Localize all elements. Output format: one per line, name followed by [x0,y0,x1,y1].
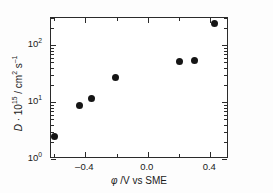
y-tick-right-major-1 [222,102,227,103]
y-axis-exponent-neg1: –1 [11,56,18,64]
y-tick-label: 101 [28,96,42,106]
y-tick-right-minor-0-4 [224,125,227,126]
y-tick-major-2 [51,45,56,46]
y-tick-base: 10 [28,95,39,106]
y-axis-units2: s [13,63,24,71]
x-tick-minor-0 [54,154,55,157]
y-tick-right-minor-1-3 [224,75,227,76]
y-tick-right-major-0 [222,159,227,160]
y-tick-right-minor-1-4 [224,68,227,69]
y-tick-right-minor-1-5 [224,62,227,63]
plot-area [50,17,228,158]
y-tick-base: 10 [28,152,39,163]
x-tick-label: –0.4 [75,161,94,172]
data-point [211,20,218,27]
data-point [191,57,198,64]
y-axis-title: D · 1015 / cm2 s–1 [13,19,24,169]
data-point [112,74,119,81]
y-tick-base: 10 [28,38,39,49]
y-axis-symbol: D [13,124,24,131]
y-tick-right-major-2 [222,45,227,46]
y-tick-minor-0-7 [51,111,54,112]
y-axis-units: / cm [13,75,24,97]
y-tick-right-minor-1-9 [224,48,227,49]
y-tick-exponent: 0 [38,151,42,158]
y-tick-minor-1-7 [51,54,54,55]
y-tick-right-minor-0-8 [224,108,227,109]
y-tick-exponent: 2 [38,37,42,44]
data-point [88,95,95,102]
y-tick-minor-0-4 [51,125,54,126]
y-tick-minor-0-5 [51,119,54,120]
scatter-chart-figure: –0.40.00.4102101100 φ /V vs SME D · 1015… [0,0,273,193]
y-tick-right-minor-2-3 [224,18,227,19]
x-tick-label: 0.4 [203,161,216,172]
y-tick-label: 100 [28,153,42,163]
x-tick-major-1 [148,152,149,157]
y-tick-right-minor-1-7 [224,54,227,55]
x-tick-top-major-1 [148,18,149,23]
y-tick-minor-2-2 [51,28,54,29]
y-tick-minor-2-3 [51,18,54,19]
x-axis-title: φ /V vs SME [50,175,228,186]
y-axis-exponent-15: 15 [11,97,18,105]
y-axis-mid: · 10 [13,104,24,124]
x-axis-units: /V vs SME [118,175,167,186]
x-tick-major-2 [210,152,211,157]
x-tick-label: 0.0 [140,161,153,172]
y-tick-right-minor-0-3 [224,132,227,133]
y-tick-label: 102 [28,39,42,49]
y-tick-minor-0-6 [51,115,54,116]
x-tick-minor-1 [117,154,118,157]
y-tick-minor-0-8 [51,108,54,109]
data-point [176,58,183,65]
x-tick-top-major-0 [85,18,86,23]
y-tick-minor-1-6 [51,58,54,59]
y-tick-right-minor-0-9 [224,105,227,106]
x-tick-major-0 [85,152,86,157]
data-point [51,133,58,140]
y-tick-right-minor-1-6 [224,58,227,59]
y-tick-exponent: 1 [38,94,42,101]
y-tick-right-minor-0-2 [224,142,227,143]
y-tick-minor-1-5 [51,62,54,63]
y-tick-right-minor-0-6 [224,115,227,116]
x-tick-top-minor-0 [54,18,55,21]
x-tick-top-minor-1 [117,18,118,21]
x-tick-top-minor-2 [179,18,180,21]
y-tick-minor-0-9 [51,105,54,106]
y-tick-major-0 [51,159,56,160]
y-tick-minor-0-2 [51,142,54,143]
y-tick-right-minor-0-7 [224,111,227,112]
y-axis-exponent-2: 2 [11,71,18,75]
x-tick-minor-2 [179,154,180,157]
y-tick-right-minor-1-2 [224,85,227,86]
y-tick-right-minor-2-2 [224,28,227,29]
y-tick-right-minor-0-5 [224,119,227,120]
y-tick-minor-1-2 [51,85,54,86]
y-tick-minor-1-9 [51,48,54,49]
data-point [76,102,83,109]
y-tick-minor-1-8 [51,51,54,52]
y-tick-minor-1-3 [51,75,54,76]
y-tick-major-1 [51,102,56,103]
y-tick-minor-1-4 [51,68,54,69]
y-tick-right-minor-1-8 [224,51,227,52]
